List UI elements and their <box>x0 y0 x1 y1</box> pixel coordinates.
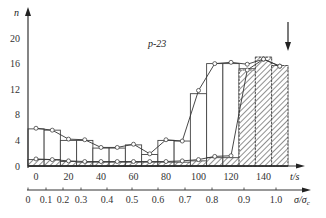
data-point-marker <box>132 160 136 164</box>
bar-open <box>207 64 223 166</box>
data-point-marker <box>34 126 38 130</box>
chart: n 048121620 t/s 020406080100120140 σ/σc … <box>0 0 326 218</box>
y-axis-label: n <box>14 7 19 18</box>
data-point-marker <box>148 152 152 156</box>
x-axis-arrow-icon <box>296 164 305 169</box>
data-point-marker <box>180 139 184 143</box>
y-tick-label: 0 <box>15 161 20 172</box>
bar-hatched <box>272 66 288 166</box>
data-point-marker <box>67 159 71 163</box>
x-tick-label: 100 <box>191 171 206 182</box>
x-tick-label: 40 <box>96 171 106 182</box>
x-ticks: 020406080100120140 <box>34 171 272 182</box>
y-tick-label: 20 <box>10 33 20 44</box>
data-point-marker <box>67 137 71 141</box>
data-point-marker <box>164 160 168 164</box>
bar-hatched <box>207 158 223 166</box>
x-tick-label: 60 <box>129 171 139 182</box>
y-tick-label: 8 <box>15 109 20 120</box>
y-tick-label: 12 <box>10 84 20 95</box>
data-point-marker <box>148 160 152 164</box>
bar-hatched <box>255 57 271 166</box>
data-point-marker <box>83 138 87 142</box>
data-point-marker <box>262 57 266 61</box>
x2-axis-label: σ/σc <box>294 194 311 207</box>
data-point-marker <box>213 154 217 158</box>
data-point-marker <box>115 160 119 164</box>
chart-annotation: p-23 <box>147 38 166 49</box>
data-point-marker <box>50 128 54 132</box>
y-tick-label: 16 <box>10 58 20 69</box>
data-point-marker <box>245 62 249 66</box>
y-tick-label: 4 <box>15 135 20 146</box>
x2-tick-label: 0.9 <box>238 194 251 205</box>
data-point-marker <box>83 160 87 164</box>
x2-tick-label: 0.6 <box>152 194 165 205</box>
bar-open <box>223 64 239 166</box>
bar-hatched <box>239 70 255 166</box>
x2-tick-label: 0.8 <box>206 194 219 205</box>
x2-tick-label: 0.4 <box>101 194 114 205</box>
data-point-marker <box>99 145 103 149</box>
data-point-marker <box>245 68 249 72</box>
data-point-marker <box>99 160 103 164</box>
x-tick-label: 0 <box>34 171 39 182</box>
x2-tick-label: 0.7 <box>179 194 192 205</box>
x2-tick-label: 0 <box>26 194 31 205</box>
failure-arrow-icon <box>285 22 291 51</box>
x2-tick-label: 0.3 <box>75 194 88 205</box>
data-point-marker <box>197 158 201 162</box>
y-axis-arrow-icon <box>25 7 31 16</box>
data-point-marker <box>213 62 217 66</box>
x-tick-label: 120 <box>224 171 239 182</box>
data-point-marker <box>278 64 282 68</box>
x2-tick-label: 1.0 <box>270 194 283 205</box>
data-point-marker <box>197 88 201 92</box>
x-tick-label: 80 <box>161 171 171 182</box>
data-point-marker <box>164 138 168 142</box>
y-ticks: 048121620 <box>10 33 20 172</box>
x-axis-label: t/s <box>290 171 300 182</box>
x2-tick-label: 0.1 <box>40 194 53 205</box>
data-point-marker <box>132 142 136 146</box>
bar-open <box>190 94 206 166</box>
data-point-marker <box>229 60 233 64</box>
data-point-marker <box>115 145 119 149</box>
x2-tick-label: 0.2 <box>57 194 70 205</box>
data-point-marker <box>180 159 184 163</box>
data-point-marker <box>34 157 38 161</box>
x2-axis-arrow-icon <box>302 188 311 193</box>
data-point-marker <box>229 154 233 158</box>
bar-hatched <box>223 158 239 166</box>
x2-tick-label: 0.5 <box>126 194 139 205</box>
x-tick-label: 20 <box>64 171 74 182</box>
data-point-marker <box>50 158 54 162</box>
x-tick-label: 140 <box>256 171 271 182</box>
